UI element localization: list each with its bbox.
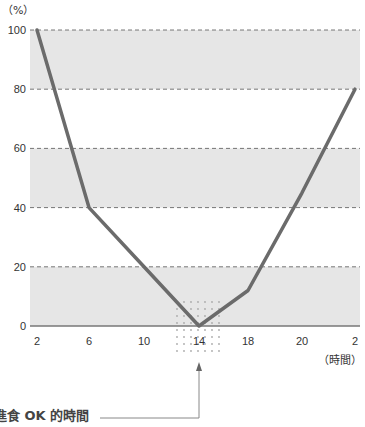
highlight-dot: [176, 322, 178, 324]
highlight-dot: [211, 343, 213, 345]
highlight-dot: [183, 336, 185, 338]
highlight-dot: [183, 301, 185, 303]
highlight-dot: [211, 350, 213, 352]
annotation-caption: 進食 OK 的時間: [0, 405, 89, 424]
y-tick-label: 20: [14, 261, 26, 273]
x-tick-label: 10: [138, 335, 150, 347]
y-axis-unit: （%）: [2, 4, 34, 17]
highlight-dot: [176, 336, 178, 338]
highlight-dot: [218, 336, 220, 338]
highlight-dot: [204, 350, 206, 352]
y-tick-label: 0: [20, 320, 26, 332]
highlight-dot: [197, 301, 199, 303]
highlight-dot: [197, 315, 199, 317]
highlight-dot: [218, 322, 220, 324]
highlight-dot: [183, 315, 185, 317]
highlight-dot: [176, 308, 178, 310]
y-tick-label: 80: [14, 83, 26, 95]
x-tick-label: 2: [34, 335, 40, 347]
y-tick-label: 60: [14, 142, 26, 154]
x-axis-unit: （時間）: [318, 354, 362, 367]
highlight-dot: [204, 329, 206, 331]
highlight-dot: [204, 308, 206, 310]
highlight-dot: [176, 315, 178, 317]
highlight-dot: [218, 329, 220, 331]
shaded-band: [30, 30, 360, 89]
highlight-dot: [211, 308, 213, 310]
highlight-dot: [204, 301, 206, 303]
highlight-dot: [183, 329, 185, 331]
highlight-dot: [190, 336, 192, 338]
highlight-dot: [218, 315, 220, 317]
highlight-dot: [190, 322, 192, 324]
x-tick-label: 20: [296, 335, 308, 347]
highlight-dot: [197, 308, 199, 310]
highlight-dot: [190, 329, 192, 331]
highlight-dot: [211, 301, 213, 303]
highlight-dot: [183, 343, 185, 345]
highlight-dot: [183, 322, 185, 324]
highlight-dot: [204, 315, 206, 317]
highlight-dot: [190, 343, 192, 345]
shaded-band: [30, 267, 360, 326]
x-tick-label: 14: [193, 335, 205, 347]
highlight-dot: [190, 308, 192, 310]
y-tick-label: 100: [8, 24, 26, 36]
highlight-dot: [211, 336, 213, 338]
line-chart: 02040608010026101418202（%）（時間）: [0, 0, 365, 427]
highlight-dot: [211, 322, 213, 324]
highlight-dot: [218, 301, 220, 303]
highlight-dot: [211, 329, 213, 331]
x-tick-label: 18: [242, 335, 254, 347]
highlight-dot: [218, 350, 220, 352]
highlight-dot: [176, 329, 178, 331]
highlight-dot: [190, 301, 192, 303]
highlight-dot: [176, 350, 178, 352]
highlight-dot: [183, 350, 185, 352]
arrow-head-icon: [196, 362, 202, 371]
highlight-dot: [176, 343, 178, 345]
highlight-dot: [218, 343, 220, 345]
x-tick-label: 2: [352, 335, 358, 347]
x-tick-label: 6: [86, 335, 92, 347]
highlight-dot: [197, 329, 199, 331]
y-tick-label: 40: [14, 202, 26, 214]
highlight-dot: [190, 350, 192, 352]
highlight-dot: [197, 350, 199, 352]
